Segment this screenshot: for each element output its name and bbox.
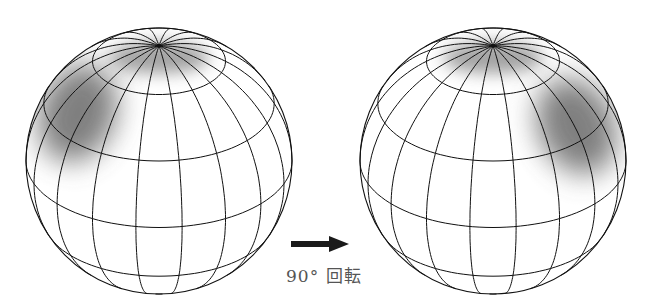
sphere-after bbox=[360, 28, 632, 294]
figure-canvas bbox=[0, 0, 649, 305]
rotation-arrow-icon bbox=[291, 236, 349, 252]
sphere-before bbox=[25, 28, 292, 294]
rotation-label: 90° 回転 bbox=[286, 262, 362, 287]
